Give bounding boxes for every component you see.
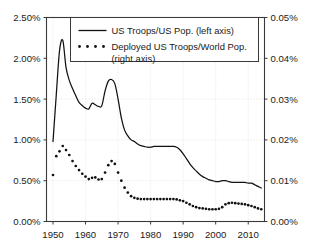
chart-legend: US Troops/US Pop. (left axis)Deployed US…: [71, 18, 259, 64]
right-axis-labels: 0.00%0.01%0.02%0.03%0.04%0.05%: [271, 12, 299, 227]
left-axis-tick-label: 2.50%: [13, 12, 41, 23]
series-dot-deployed-troops-world-pop: [104, 171, 107, 174]
series-dot-deployed-troops-world-pop: [143, 198, 146, 201]
series-dot-deployed-troops-world-pop: [192, 205, 195, 208]
series-dot-deployed-troops-world-pop: [87, 178, 90, 181]
series-dot-deployed-troops-world-pop: [188, 203, 191, 206]
series-dot-deployed-troops-world-pop: [201, 207, 204, 210]
series-dot-deployed-troops-world-pop: [97, 178, 100, 181]
legend-swatch-dot: [78, 45, 81, 48]
x-axis-tick-label: 1970: [107, 229, 128, 240]
series-dot-deployed-troops-world-pop: [117, 171, 120, 174]
series-dot-deployed-troops-world-pop: [68, 154, 71, 157]
series-dot-deployed-troops-world-pop: [227, 202, 230, 205]
series-dot-deployed-troops-world-pop: [208, 208, 211, 211]
x-axis-labels: 1950196019701980199020002010: [42, 229, 259, 240]
series-dot-deployed-troops-world-pop: [166, 198, 169, 201]
series-dot-deployed-troops-world-pop: [55, 155, 58, 158]
series-dot-deployed-troops-world-pop: [159, 198, 162, 201]
series-dot-deployed-troops-world-pop: [113, 163, 116, 166]
series-dot-deployed-troops-world-pop: [100, 178, 103, 181]
series-dot-deployed-troops-world-pop: [84, 175, 87, 178]
series-dot-deployed-troops-world-pop: [130, 195, 133, 198]
series-dot-deployed-troops-world-pop: [231, 201, 234, 204]
series-dot-deployed-troops-world-pop: [169, 198, 172, 201]
series-dot-deployed-troops-world-pop: [257, 207, 260, 210]
series-dot-deployed-troops-world-pop: [211, 208, 214, 211]
right-axis-tick-label: 0.00%: [271, 216, 299, 227]
series-dot-deployed-troops-world-pop: [120, 179, 123, 182]
x-axis-tick-label: 2010: [238, 229, 259, 240]
left-axis-tick-label: 2.00%: [13, 53, 41, 64]
series-dot-deployed-troops-world-pop: [78, 169, 81, 172]
series-dot-deployed-troops-world-pop: [107, 164, 110, 167]
left-axis-tick-label: 0.50%: [13, 175, 41, 186]
series-dot-deployed-troops-world-pop: [149, 198, 152, 201]
series-dot-deployed-troops-world-pop: [244, 203, 247, 206]
series-dot-deployed-troops-world-pop: [136, 197, 139, 200]
series-dot-deployed-troops-world-pop: [240, 203, 243, 206]
series-dot-deployed-troops-world-pop: [91, 176, 94, 179]
left-axis-labels: 0.00%0.50%1.00%1.50%2.00%2.50%: [13, 12, 41, 227]
series-dot-deployed-troops-world-pop: [146, 198, 149, 201]
series-dot-deployed-troops-world-pop: [58, 150, 61, 153]
series-dot-deployed-troops-world-pop: [156, 198, 159, 201]
series-dot-deployed-troops-world-pop: [185, 201, 188, 204]
series-dot-deployed-troops-world-pop: [247, 204, 250, 207]
series-dot-deployed-troops-world-pop: [250, 205, 253, 208]
series-dot-deployed-troops-world-pop: [218, 208, 221, 211]
series-dot-deployed-troops-world-pop: [195, 206, 198, 209]
series-dot-deployed-troops-world-pop: [237, 202, 240, 205]
series-dot-deployed-troops-world-pop: [162, 198, 165, 201]
x-axis-tick-label: 1960: [75, 229, 96, 240]
series-dot-deployed-troops-world-pop: [253, 206, 256, 209]
series-dot-deployed-troops-world-pop: [61, 145, 64, 148]
series-dot-deployed-troops-world-pop: [140, 198, 143, 201]
right-axis-tick-label: 0.03%: [271, 94, 299, 105]
x-axis-tick-label: 1990: [172, 229, 193, 240]
series-dot-deployed-troops-world-pop: [260, 208, 263, 211]
right-axis-tick-label: 0.04%: [271, 53, 299, 64]
series-dot-deployed-troops-world-pop: [94, 176, 97, 179]
left-axis-tick-label: 1.00%: [13, 134, 41, 145]
series-dot-deployed-troops-world-pop: [110, 160, 113, 163]
series-dot-deployed-troops-world-pop: [198, 207, 201, 210]
right-axis-tick-label: 0.05%: [271, 12, 299, 23]
series-dot-deployed-troops-world-pop: [175, 198, 178, 201]
series-dot-deployed-troops-world-pop: [172, 198, 175, 201]
legend-label-us-troops-us-pop: US Troops/US Pop. (left axis): [112, 25, 234, 36]
series-dot-deployed-troops-world-pop: [179, 199, 182, 202]
right-axis-tick-label: 0.01%: [271, 175, 299, 186]
data-series: [52, 40, 263, 211]
series-dot-deployed-troops-world-pop: [74, 165, 77, 168]
series-dot-deployed-troops-world-pop: [224, 203, 227, 206]
series-dot-deployed-troops-world-pop: [52, 174, 55, 177]
legend-swatch-dot: [102, 45, 105, 48]
chart-container: 0.00%0.50%1.00%1.50%2.00%2.50% 0.00%0.01…: [0, 0, 312, 250]
series-dot-deployed-troops-world-pop: [133, 196, 136, 199]
series-dot-deployed-troops-world-pop: [214, 208, 217, 211]
series-dot-deployed-troops-world-pop: [234, 202, 237, 205]
right-axis-tick-label: 0.02%: [271, 134, 299, 145]
series-dot-deployed-troops-world-pop: [123, 186, 126, 189]
series-dot-deployed-troops-world-pop: [182, 200, 185, 203]
chart-svg: 0.00%0.50%1.00%1.50%2.00%2.50% 0.00%0.01…: [0, 0, 312, 250]
left-axis-tick-label: 1.50%: [13, 94, 41, 105]
x-axis-tick-label: 2000: [205, 229, 226, 240]
series-dot-deployed-troops-world-pop: [126, 191, 129, 194]
x-axis-tick-label: 1950: [42, 229, 63, 240]
legend-label-deployed-troops-world-pop-line2: (right axis): [112, 53, 156, 64]
series-dot-deployed-troops-world-pop: [205, 208, 208, 211]
legend-swatch-dot: [94, 45, 97, 48]
legend-label-deployed-troops-world-pop: Deployed US Troops/World Pop.: [112, 41, 247, 52]
series-dot-deployed-troops-world-pop: [153, 198, 156, 201]
x-axis-tick-label: 1980: [140, 229, 161, 240]
series-dot-deployed-troops-world-pop: [221, 206, 224, 209]
series-dot-deployed-troops-world-pop: [71, 160, 74, 163]
series-dot-deployed-troops-world-pop: [65, 149, 68, 152]
left-axis-tick-label: 0.00%: [13, 216, 41, 227]
series-dot-deployed-troops-world-pop: [81, 172, 84, 175]
legend-swatch-dot: [86, 45, 89, 48]
